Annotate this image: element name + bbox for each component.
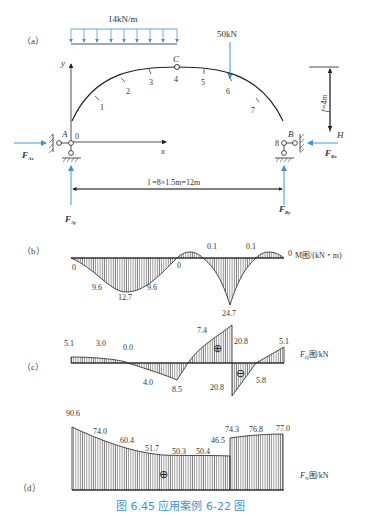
hinge-C-label: C — [173, 54, 180, 64]
point-6-label: 6 — [226, 87, 230, 96]
shear-label-3.0: 3.0 — [96, 339, 106, 348]
shear-positive-sign: ⊕ — [213, 342, 222, 354]
moment-label-9.6-a: 9.6 — [92, 283, 102, 292]
panel-b-label: （b） — [22, 246, 45, 256]
axial-label-5: 50.4 — [196, 447, 210, 456]
axial-label-4: 50.3 — [172, 447, 186, 456]
reaction-FAy-label: FAy — [64, 214, 77, 225]
shear-negative-sign: ⊖ — [236, 367, 245, 379]
shear-label-7.4: 7.4 — [197, 326, 207, 335]
distributed-load: 14kN/m — [71, 14, 177, 44]
shear-label-8.5: 8.5 — [172, 385, 182, 394]
panel-c-shear-diagram: （c） 5.1 3.0 0.0 4.0 8.5 7.4 20.8 20.8 5.… — [22, 325, 329, 396]
panel-a-label: （a） — [22, 36, 44, 46]
point-4-label: 4 — [174, 75, 178, 84]
axial-label-3: 51.7 — [145, 444, 159, 453]
moment-label-24.7: 24.7 — [222, 309, 236, 318]
axial-label-6R: 74.3 — [225, 425, 239, 434]
point-load-label: 50kN — [217, 29, 238, 39]
H-label: H — [336, 130, 344, 140]
point-7-label: 7 — [251, 106, 255, 115]
reaction-FAx-label: FAx — [21, 150, 34, 161]
figure-canvas: （a） 14kN/m 50kN C — [0, 0, 368, 516]
moment-label-left-0: 0 — [72, 263, 76, 272]
moment-label-end-0: 0 — [288, 249, 292, 258]
panel-d-axial-diagram: （d） 90.6 74.0 60.4 51.7 50.3 50.4 46.5 7… — [18, 409, 329, 493]
point-3-label: 3 — [149, 78, 153, 87]
support-A-label: A — [61, 129, 68, 139]
reaction-FBy-label: FBy — [278, 204, 291, 215]
axial-label-7: 76.8 — [249, 425, 263, 434]
axial-label-0: 90.6 — [66, 409, 80, 418]
axial-label-1: 74.0 — [93, 427, 107, 436]
span-dimension: l =8×1.5m=12m — [73, 178, 282, 189]
shear-label-20.8-top: 20.8 — [234, 337, 248, 346]
shear-label-20.8-bottom: 20.8 — [210, 383, 224, 392]
point-5-label: 5 — [201, 78, 205, 87]
shear-label-0.0: 0.0 — [123, 343, 133, 352]
hinge-C — [175, 65, 180, 70]
moment-label-9.6-b: 9.6 — [147, 283, 157, 292]
moment-label-12.7: 12.7 — [118, 293, 132, 302]
panel-a-arch: （a） 14kN/m 50kN C — [14, 14, 344, 225]
moment-diagram-title: M图/(kN・m) — [295, 251, 342, 260]
x-axis-label: x — [160, 146, 165, 156]
reaction-FBx-label: FBx — [324, 148, 337, 159]
shear-label-5.1-right: 5.1 — [279, 337, 289, 346]
distributed-load-label: 14kN/m — [108, 14, 138, 24]
moment-label-0.1-a: 0.1 — [207, 242, 217, 251]
moment-label-0.1-b: 0.1 — [246, 242, 256, 251]
origin-label: 0 — [75, 132, 79, 141]
shear-diagram-title: FQ图/kN — [299, 350, 329, 360]
figure-caption: 图 6.45 应用案例 6-22 图 — [116, 499, 245, 513]
shear-label-5.1-left: 5.1 — [64, 339, 74, 348]
panel-c-label: （c） — [22, 362, 44, 372]
rise-dimension: f=4m H — [309, 67, 344, 140]
y-axis-label: y — [60, 58, 65, 68]
moment-label-mid-0: 0 — [177, 261, 181, 270]
axial-label-6L: 46.5 — [211, 436, 225, 445]
axial-positive-sign: ⊕ — [159, 468, 168, 480]
point-2-label: 2 — [126, 87, 130, 96]
rise-label: f=4m — [320, 94, 329, 112]
point-1-label: 1 — [100, 103, 104, 112]
span-label: l =8×1.5m=12m — [148, 178, 201, 187]
panel-d-label: （d） — [18, 483, 41, 493]
panel-b-moment-diagram: （b） 0 9.6 12.7 9.6 0 0.1 0.1 24.7 0 M图/(… — [22, 242, 342, 318]
axial-diagram-title: FN图/kN — [299, 471, 329, 481]
support-B-label: B — [288, 129, 294, 139]
shear-label-4.0: 4.0 — [143, 378, 153, 387]
shear-label-5.8: 5.8 — [256, 376, 266, 385]
axial-label-8: 77.0 — [276, 424, 290, 433]
axial-label-2: 60.4 — [120, 436, 134, 445]
point-8-label: 8 — [275, 139, 279, 148]
